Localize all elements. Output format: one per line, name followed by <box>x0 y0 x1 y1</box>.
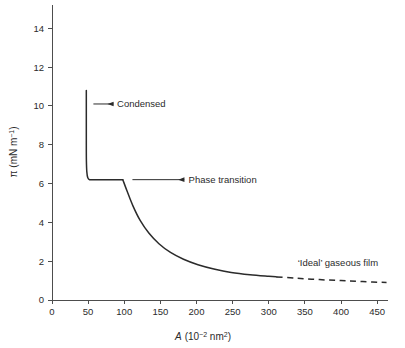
x-tick-label-100: 100 <box>116 306 132 317</box>
chart-annotations: CondensedPhase transition‘Ideal’ gaseous… <box>93 98 378 267</box>
y-axis-title-symbol: π <box>8 171 19 178</box>
y-tick-label-14: 14 <box>33 23 44 34</box>
data-series <box>86 90 386 282</box>
x-tick-label-50: 50 <box>83 306 94 317</box>
y-axis-title-close: ) <box>8 126 19 129</box>
annotation-label-condensed: Condensed <box>117 98 166 109</box>
x-axis-title-units-tail: nm <box>207 331 224 342</box>
series-ideal-gaseous-extrapolation <box>277 277 387 283</box>
y-tick-label-6: 6 <box>39 178 44 189</box>
annotation-label-ideal-gaseous-film: ‘Ideal’ gaseous film <box>298 257 379 268</box>
svg-text:A(10−2 nm2): A(10−2 nm2) <box>174 331 231 343</box>
y-axis-ticks: 02468101214 <box>33 23 52 306</box>
svg-text:π(mN m−1): π(mN m−1) <box>8 126 20 177</box>
x-tick-label-250: 250 <box>225 306 241 317</box>
x-tick-label-450: 450 <box>369 306 385 317</box>
y-tick-label-12: 12 <box>33 62 44 73</box>
y-tick-label-10: 10 <box>33 100 44 111</box>
chart-canvas: 050100150200250300350400450 02468101214 … <box>0 0 405 348</box>
y-axis-title-exponent: −1 <box>8 130 15 138</box>
y-axis-title-units: (mN m <box>8 138 19 168</box>
y-axis-title: π(mN m−1) <box>8 126 20 177</box>
annotation-label-phase-transition: Phase transition <box>189 174 257 185</box>
x-tick-label-400: 400 <box>333 306 349 317</box>
x-axis-title-exponent: −2 <box>199 331 207 338</box>
x-tick-label-300: 300 <box>261 306 277 317</box>
x-tick-label-150: 150 <box>152 306 168 317</box>
x-axis-ticks: 050100150200250300350400450 <box>49 300 385 317</box>
x-tick-label-0: 0 <box>49 306 54 317</box>
y-tick-label-2: 2 <box>39 256 44 267</box>
series-gaseous-branch-solid <box>123 180 277 277</box>
x-tick-label-200: 200 <box>189 306 205 317</box>
y-tick-label-4: 4 <box>39 217 44 228</box>
y-tick-label-8: 8 <box>39 139 44 150</box>
x-axis-title: A(10−2 nm2) <box>174 331 231 343</box>
y-tick-label-0: 0 <box>39 294 44 305</box>
surface-pressure-area-isotherm-chart: 050100150200250300350400450 02468101214 … <box>0 0 405 348</box>
x-axis-title-close: ) <box>228 331 231 342</box>
x-axis-title-symbol: A <box>174 331 182 342</box>
x-axis-title-units: (10 <box>185 331 200 342</box>
x-tick-label-350: 350 <box>297 306 313 317</box>
